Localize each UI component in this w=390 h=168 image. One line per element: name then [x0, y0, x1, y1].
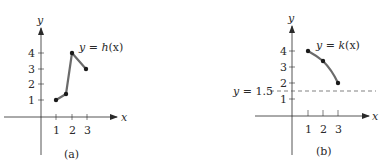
y-axis-label: y — [287, 12, 295, 25]
function-label: y = h(x) — [78, 41, 123, 54]
x-tick-label: 3 — [84, 124, 91, 137]
h-curve — [56, 53, 86, 100]
asymptote-label: y = 1.5 — [232, 85, 273, 98]
y-tick-label: 3 — [28, 63, 35, 76]
x-tick-label: 1 — [53, 124, 60, 137]
x-tick-label: 1 — [305, 123, 312, 136]
panel-label: (b) — [316, 145, 332, 158]
data-point — [70, 51, 74, 55]
x-tick-label: 2 — [69, 124, 76, 137]
graph-a: y x 1 2 3 1 2 3 4 y = h(x) (a) — [4, 14, 128, 161]
x-tick-label: 3 — [335, 123, 342, 136]
data-point — [336, 81, 340, 85]
x-tick-label: 2 — [320, 123, 327, 136]
x-axis-label: x — [121, 111, 128, 124]
y-tick-label: 4 — [280, 45, 287, 58]
y-tick-label: 4 — [28, 47, 35, 60]
y-tick-label: 1 — [280, 93, 287, 106]
y-axis-label: y — [36, 14, 44, 27]
k-curve — [308, 51, 338, 83]
figure: y x 1 2 3 1 2 3 4 y = h(x) (a) y x — [0, 0, 390, 168]
y-tick-label: 3 — [280, 61, 287, 74]
data-point — [64, 92, 68, 96]
y-tick-label: 2 — [280, 77, 287, 90]
function-label: y = k(x) — [315, 39, 360, 52]
y-tick-label: 2 — [28, 78, 35, 91]
panel-label: (a) — [64, 148, 79, 161]
data-point — [54, 98, 58, 102]
graph-b: y x 1 2 3 1 2 3 4 y = 1.5 y = k(x) (b) — [232, 12, 379, 158]
x-axis-label: x — [372, 110, 379, 123]
y-tick-label: 1 — [28, 94, 35, 107]
data-point — [321, 59, 325, 63]
data-point — [306, 49, 310, 53]
data-point — [84, 67, 88, 71]
